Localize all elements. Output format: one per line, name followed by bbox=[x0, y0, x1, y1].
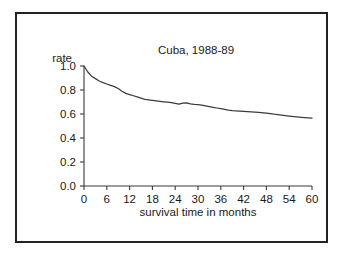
x-axis-label: survival time in months bbox=[140, 206, 257, 218]
x-tick-label: 42 bbox=[237, 193, 250, 205]
survival-curve-chart: Cuba, 1988-89 rate survival time in mont… bbox=[0, 0, 343, 258]
y-tick-label: 0.6 bbox=[60, 108, 76, 120]
survival-rate-line bbox=[84, 66, 312, 118]
x-tick-label: 24 bbox=[169, 193, 182, 205]
x-tick-label: 54 bbox=[283, 193, 296, 205]
y-tick-label: 0.2 bbox=[60, 156, 76, 168]
chart-title: Cuba, 1988-89 bbox=[158, 44, 234, 56]
x-tick-label: 6 bbox=[104, 193, 110, 205]
y-tick-label: 0.0 bbox=[60, 180, 76, 192]
y-axis: 0.00.20.40.60.81.0 bbox=[60, 60, 84, 192]
y-tick-label: 0.8 bbox=[60, 84, 76, 96]
x-tick-label: 36 bbox=[214, 193, 227, 205]
x-tick-label: 12 bbox=[123, 193, 136, 205]
x-axis: 06121824303642485460 bbox=[81, 186, 319, 205]
y-tick-label: 0.4 bbox=[60, 132, 77, 144]
figure-root: Cuba, 1988-89 rate survival time in mont… bbox=[0, 0, 343, 258]
x-tick-label: 18 bbox=[146, 193, 159, 205]
x-tick-label: 0 bbox=[81, 193, 87, 205]
x-axis-ticks: 06121824303642485460 bbox=[81, 186, 319, 205]
x-tick-label: 48 bbox=[260, 193, 273, 205]
x-tick-label: 60 bbox=[306, 193, 319, 205]
y-axis-ticks: 0.00.20.40.60.81.0 bbox=[60, 60, 84, 192]
x-tick-label: 30 bbox=[192, 193, 205, 205]
y-tick-label: 1.0 bbox=[60, 60, 76, 72]
